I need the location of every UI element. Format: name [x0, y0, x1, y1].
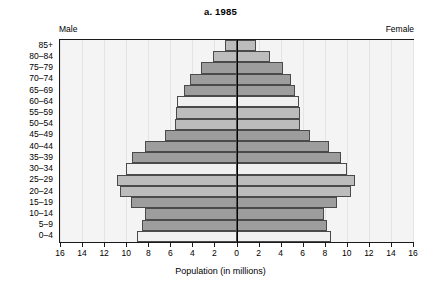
x-axis-tick-label: 16 [401, 248, 425, 258]
bar-male [137, 231, 236, 242]
female-side-label: Female [386, 24, 414, 34]
x-axis-tick [281, 243, 282, 247]
x-axis-tick-label: 4 [269, 248, 293, 258]
x-axis-tick-label: 8 [136, 248, 160, 258]
bar-female [237, 141, 330, 152]
y-axis-tick-label: 55–59 [29, 108, 53, 117]
x-axis-tick [60, 243, 61, 247]
x-axis-tick-label: 16 [48, 248, 72, 258]
x-axis-tick-label: 2 [202, 248, 226, 258]
bar-male [177, 96, 237, 107]
bar-female [237, 40, 257, 51]
y-axis-tick-label: 70–74 [29, 74, 53, 83]
bar-female [237, 85, 295, 96]
bar-male [145, 208, 237, 219]
bar-male [165, 130, 237, 141]
x-axis-tick-label: 12 [357, 248, 381, 258]
bar-female [237, 96, 300, 107]
gridline [413, 40, 414, 242]
y-axis-tick-label: 75–79 [29, 63, 53, 72]
x-axis-tick [192, 243, 193, 247]
x-axis-tick [413, 243, 414, 247]
x-axis-tick [148, 243, 149, 247]
bar-male [184, 85, 237, 96]
bar-female [237, 197, 337, 208]
bar-female [237, 62, 283, 73]
x-axis-tick-label: 12 [92, 248, 116, 258]
x-axis-tick [303, 243, 304, 247]
bar-female [237, 51, 270, 62]
x-axis-tick-label: 10 [335, 248, 359, 258]
x-axis-tick-label: 2 [247, 248, 271, 258]
x-axis-labels: 1614121086420246810121416 [0, 248, 441, 262]
x-axis-tick [237, 243, 238, 247]
y-axis-tick-label: 80–84 [29, 52, 53, 61]
bar-female [237, 220, 327, 231]
bar-male [176, 107, 237, 118]
bar-male [132, 152, 237, 163]
x-axis-tick [347, 243, 348, 247]
bar-male [131, 197, 237, 208]
x-axis-tick-label: 4 [180, 248, 204, 258]
male-side-label: Male [59, 24, 77, 34]
bar-male [213, 51, 236, 62]
y-axis-tick-label: 35–39 [29, 153, 53, 162]
x-axis-tick [82, 243, 83, 247]
bar-female [237, 107, 301, 118]
y-axis-tick-label: 15–19 [29, 198, 53, 207]
x-axis-tick [259, 243, 260, 247]
bar-female [237, 231, 332, 242]
plot-area [59, 39, 414, 243]
bar-male [190, 74, 236, 85]
bar-female [237, 208, 324, 219]
bar-female [237, 74, 291, 85]
bar-male [117, 175, 236, 186]
x-axis-tick [170, 243, 171, 247]
bar-male [120, 186, 237, 197]
bar-male [126, 163, 236, 174]
bar-female [237, 175, 355, 186]
x-axis-title: Population (in millions) [0, 266, 441, 276]
y-axis-tick-label: 30–34 [29, 164, 53, 173]
y-axis-tick-label: 0–4 [39, 231, 53, 240]
bar-male [225, 40, 236, 51]
x-axis-tick-label: 14 [379, 248, 403, 258]
bar-male [201, 62, 236, 73]
y-axis-tick-label: 10–14 [29, 209, 53, 218]
x-axis-tick [369, 243, 370, 247]
x-axis-tick [325, 243, 326, 247]
y-axis-tick-label: 5–9 [39, 220, 53, 229]
bar-female [237, 152, 342, 163]
y-axis-tick-label: 60–64 [29, 97, 53, 106]
bar-male [175, 119, 237, 130]
x-axis-tick-label: 14 [70, 248, 94, 258]
bar-female [237, 186, 352, 197]
x-axis-tick [126, 243, 127, 247]
y-axis-tick-label: 65–69 [29, 86, 53, 95]
x-axis-tick [391, 243, 392, 247]
bar-female [237, 119, 301, 130]
center-axis-line [237, 40, 238, 242]
y-axis-tick-label: 85+ [39, 41, 53, 50]
x-axis-tick-label: 6 [158, 248, 182, 258]
y-axis-tick-label: 40–44 [29, 142, 53, 151]
x-axis-tick-label: 0 [225, 248, 249, 258]
chart-title: a. 1985 [0, 6, 441, 17]
bar-male [142, 220, 237, 231]
y-axis-tick-label: 20–24 [29, 187, 53, 196]
x-axis-tick-label: 6 [291, 248, 315, 258]
y-axis-labels: 85+80–8475–7970–7465–6960–6455–5950–5445… [0, 39, 53, 243]
bar-male [145, 141, 237, 152]
y-axis-tick-label: 45–49 [29, 130, 53, 139]
bar-female [237, 130, 311, 141]
y-axis-tick-label: 25–29 [29, 175, 53, 184]
x-axis-tick-label: 10 [114, 248, 138, 258]
bar-female [237, 163, 347, 174]
y-axis-tick-label: 50–54 [29, 119, 53, 128]
x-axis-tick-label: 8 [313, 248, 337, 258]
x-axis-tick [104, 243, 105, 247]
x-axis-tick [214, 243, 215, 247]
